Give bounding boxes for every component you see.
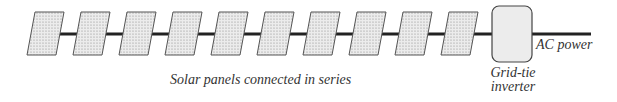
solar-panel bbox=[303, 12, 340, 55]
inverter-label: Grid-tie inverter bbox=[488, 66, 538, 94]
inverter-label-line1: Grid-tie bbox=[488, 66, 538, 80]
inverter-label-line2: inverter bbox=[488, 80, 538, 94]
solar-panel bbox=[441, 12, 478, 55]
solar-panel bbox=[395, 12, 432, 55]
solar-panel bbox=[211, 12, 248, 55]
solar-panel bbox=[165, 12, 202, 55]
solar-panel bbox=[349, 12, 386, 55]
grid-tie-inverter bbox=[492, 6, 532, 62]
solar-panel bbox=[257, 12, 294, 55]
solar-panel bbox=[27, 12, 64, 55]
series-label: Solar panels connected in series bbox=[170, 72, 351, 88]
solar-panel bbox=[119, 12, 156, 55]
solar-panel bbox=[73, 12, 110, 55]
ac-power-label: AC power bbox=[536, 37, 592, 53]
